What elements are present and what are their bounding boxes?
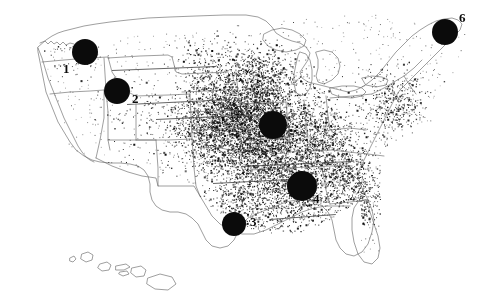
marker-leader-line bbox=[270, 214, 336, 220]
marker-label-3: 3 bbox=[250, 215, 257, 228]
marker-leader-line bbox=[156, 114, 262, 120]
numbered-marker-layer: 123456 bbox=[0, 0, 477, 292]
marker-dot-5[interactable] bbox=[259, 111, 287, 139]
marker-leader-line bbox=[127, 99, 232, 105]
marker-label-2: 2 bbox=[132, 92, 139, 105]
marker-label-4: 4 bbox=[313, 192, 320, 205]
marker-dot-6[interactable] bbox=[432, 19, 458, 45]
marker-label-6: 6 bbox=[459, 11, 466, 24]
marker-leader-line bbox=[112, 66, 216, 71]
marker-label-1: 1 bbox=[63, 62, 70, 75]
dot-density-map-figure: 123456 bbox=[0, 0, 477, 292]
marker-label-5: 5 bbox=[271, 145, 278, 158]
marker-dot-1[interactable] bbox=[72, 39, 98, 65]
marker-leader-line bbox=[241, 161, 352, 167]
marker-dot-2[interactable] bbox=[104, 78, 130, 104]
marker-dot-3[interactable] bbox=[222, 212, 246, 236]
marker-leader-line bbox=[213, 179, 290, 184]
